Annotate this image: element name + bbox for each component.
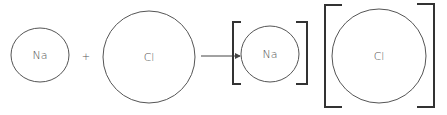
reactant-na-label: Na: [33, 49, 48, 62]
left-bracket-cl: [325, 5, 342, 107]
left-bracket-na: [233, 22, 241, 84]
reactant-na-atom: Na: [11, 28, 69, 82]
reactant-cl-atom: Cl: [103, 11, 195, 103]
product-na-ion: Na: [233, 22, 307, 84]
right-bracket-na: [296, 22, 307, 84]
reactant-cl-label: Cl: [144, 51, 155, 64]
product-cl-ion: Cl: [325, 4, 434, 107]
ionic-bonding-diagram: Na + Cl Na Cl: [0, 0, 447, 115]
plus-sign: +: [82, 51, 90, 62]
product-na-label: Na: [263, 48, 278, 61]
product-cl-label: Cl: [374, 50, 385, 63]
